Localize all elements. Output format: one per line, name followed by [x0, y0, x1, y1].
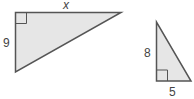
label-x: x: [62, 0, 70, 12]
triangles-figure: x 9 8 5: [0, 0, 194, 99]
large-triangle: x 9: [3, 0, 121, 72]
diagram-canvas: x 9 8 5: [0, 0, 194, 99]
large-triangle-shape: [16, 13, 122, 73]
small-triangle: 8 5: [144, 22, 191, 99]
small-triangle-shape: [157, 22, 192, 81]
label-9: 9: [3, 36, 10, 50]
label-8: 8: [144, 46, 151, 60]
label-5: 5: [169, 85, 176, 99]
